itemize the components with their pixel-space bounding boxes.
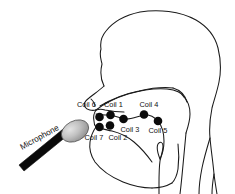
coil-label-2: Coil 2 [109,133,128,142]
microphone-head-icon [58,115,93,146]
coil-dot-3[interactable] [119,115,128,124]
coil-label-6: Coil 6 [77,100,96,109]
coil-label-7: Coil 7 [85,133,104,142]
coil-dot-4[interactable] [140,110,149,119]
epiglottis [157,142,163,194]
coil-dot-5[interactable] [154,117,163,126]
coil-label-1: Coil 1 [104,100,123,109]
ema-coil-placement-figure: Microphone Coil 1 Coil 2 Coil 3 Coil 4 C… [0,0,235,194]
microphone[interactable]: Microphone [19,115,93,171]
coil-dot-7[interactable] [95,123,104,132]
coil-dot-1[interactable] [106,111,115,120]
coil-dot-6[interactable] [95,113,104,122]
neck-lines [172,138,214,194]
figure-canvas: Microphone Coil 1 Coil 2 Coil 3 Coil 4 C… [0,0,235,194]
coil-label-4: Coil 4 [140,100,159,109]
coil-dot-2[interactable] [106,121,115,130]
coil-label-5: Coil 5 [149,126,168,135]
coil-label-3: Coil 3 [121,125,140,134]
